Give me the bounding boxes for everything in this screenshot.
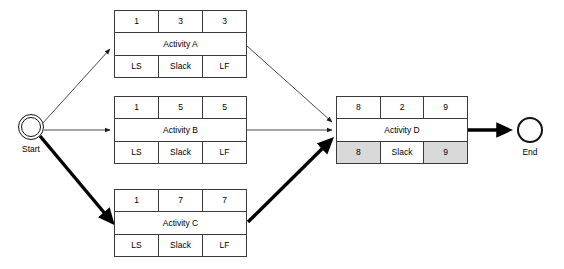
edge-start-to-activity-c xyxy=(40,136,112,222)
activity-b-ef: 5 xyxy=(202,97,246,118)
activity-a-lf: LF xyxy=(202,56,246,77)
activity-b-ls: LS xyxy=(115,142,158,163)
activity-c-es: 1 xyxy=(115,190,158,211)
activity-d-es: 8 xyxy=(337,97,380,118)
activity-d-ef: 9 xyxy=(423,97,467,118)
node-activity-c[interactable]: 1 7 7 Activity C LS Slack LF xyxy=(114,189,247,257)
activity-c-ls: LS xyxy=(115,235,158,256)
activity-a-top-row: 1 3 3 xyxy=(115,11,246,32)
activity-d-slack: Slack xyxy=(380,142,424,163)
activity-a-ef: 3 xyxy=(202,11,246,32)
activity-c-lf: LF xyxy=(202,235,246,256)
activity-b-lf: LF xyxy=(202,142,246,163)
edge-layer xyxy=(0,0,564,269)
activity-b-es: 1 xyxy=(115,97,158,118)
activity-d-lf: 9 xyxy=(423,142,467,163)
activity-b-duration: 5 xyxy=(158,97,202,118)
start-node-label: Start xyxy=(22,144,40,154)
activity-a-es: 1 xyxy=(115,11,158,32)
node-activity-a[interactable]: 1 3 3 Activity A LS Slack LF xyxy=(114,10,247,78)
edge-start-to-activity-a xyxy=(42,49,110,124)
activity-c-top-row: 1 7 7 xyxy=(115,190,246,211)
end-node[interactable]: End xyxy=(517,117,543,143)
activity-a-ls: LS xyxy=(115,56,158,77)
activity-b-slack: Slack xyxy=(158,142,202,163)
activity-a-slack: Slack xyxy=(158,56,202,77)
activity-b-top-row: 1 5 5 xyxy=(115,97,246,118)
activity-a-name-row: Activity A xyxy=(115,32,246,55)
activity-a-duration: 3 xyxy=(158,11,202,32)
node-activity-d[interactable]: 8 2 9 Activity D 8 Slack 9 xyxy=(336,96,468,164)
end-circle xyxy=(517,117,543,143)
activity-b-bottom-row: LS Slack LF xyxy=(115,142,246,163)
edge-activity-a-to-activity-d xyxy=(247,46,332,122)
activity-c-duration: 7 xyxy=(158,190,202,211)
edge-activity-c-to-activity-d xyxy=(248,140,331,222)
activity-a-name: Activity A xyxy=(115,33,246,54)
activity-d-top-row: 8 2 9 xyxy=(337,97,467,118)
activity-c-slack: Slack xyxy=(158,235,202,256)
activity-c-name-row: Activity C xyxy=(115,211,246,234)
start-inner-circle xyxy=(21,117,41,137)
activity-a-bottom-row: LS Slack LF xyxy=(115,56,246,77)
activity-c-ef: 7 xyxy=(202,190,246,211)
activity-d-name: Activity D xyxy=(337,119,467,140)
start-node[interactable]: Start xyxy=(18,114,44,140)
activity-b-name-row: Activity B xyxy=(115,118,246,141)
end-node-label: End xyxy=(522,147,537,157)
activity-c-name: Activity C xyxy=(115,212,246,233)
activity-d-ls: 8 xyxy=(337,142,380,163)
activity-d-name-row: Activity D xyxy=(337,118,467,141)
activity-b-name: Activity B xyxy=(115,119,246,140)
activity-c-bottom-row: LS Slack LF xyxy=(115,235,246,256)
activity-d-bottom-row: 8 Slack 9 xyxy=(337,142,467,163)
network-diagram-canvas: Start End 1 3 3 Activity A LS Slack LF 1… xyxy=(0,0,564,269)
activity-d-duration: 2 xyxy=(380,97,424,118)
node-activity-b[interactable]: 1 5 5 Activity B LS Slack LF xyxy=(114,96,247,164)
